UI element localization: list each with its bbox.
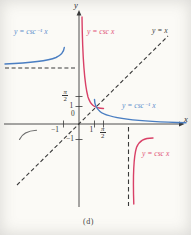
x-tick-label-pi-over-2: π 2 — [100, 126, 106, 140]
panel-caption: (d) — [83, 217, 94, 226]
y-axis-arrow-icon — [77, 10, 82, 16]
y-tick-label-pi-over-2: π 2 — [62, 89, 68, 103]
y-axis-label: y — [74, 1, 78, 10]
label-csc-inverse-upper-left: y = csc⁻¹ x — [14, 27, 48, 36]
origin-label: 0 — [71, 110, 75, 118]
label-csc-lower: y = csc x — [142, 149, 169, 158]
two-denominator: 2 — [62, 95, 68, 102]
identity-line-y-equals-x — [17, 36, 168, 185]
x-axis-label: x — [184, 115, 188, 124]
csc-inverse-curve-upper-left-branch — [5, 48, 64, 65]
label-identity-line: y = x — [152, 26, 168, 35]
label-csc-inverse-right: y = csc⁻¹ x — [122, 101, 156, 110]
csc-curve-lower-branch — [133, 138, 153, 204]
x-tick-label-1: 1 — [90, 126, 94, 134]
label-csc-upper: y = csc x — [87, 27, 114, 36]
x-tick-label-minus-1: −1 — [51, 126, 59, 134]
inverse-cosecant-figure: y x 0 y = csc⁻¹ x y = csc x y = x y = cs… — [0, 0, 191, 235]
stray-arc-fragment — [20, 130, 37, 139]
y-tick-label-minus-1: −1 — [66, 135, 74, 143]
two-denominator: 2 — [100, 132, 106, 139]
y-tick-label-1: 1 — [70, 102, 74, 110]
